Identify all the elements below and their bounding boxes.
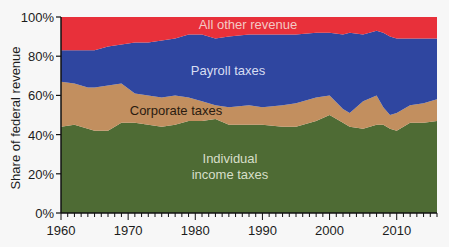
label-payroll-taxes: Payroll taxes xyxy=(191,63,266,78)
area-bands xyxy=(61,17,437,213)
x-tick-label: 1960 xyxy=(47,223,76,238)
x-tick-label: 1980 xyxy=(181,223,210,238)
label-all-other-revenue: All other revenue xyxy=(199,17,297,32)
y-tick-label: 60% xyxy=(28,88,54,103)
x-tick-label: 1970 xyxy=(114,223,143,238)
x-tick-label: 1990 xyxy=(248,223,277,238)
y-tick-label: 40% xyxy=(28,128,54,143)
x-tick-label: 2010 xyxy=(382,223,411,238)
label-individual: Individual xyxy=(203,151,258,166)
y-tick-label: 80% xyxy=(28,49,54,64)
label-income-taxes: income taxes xyxy=(192,167,269,182)
y-axis-label: Share of federal revenue xyxy=(8,46,23,189)
x-tick-label: 2000 xyxy=(315,223,344,238)
y-tick-label: 0% xyxy=(35,206,54,221)
stacked-area-chart: 0%20%40%60%80%100%1960197019801990200020… xyxy=(0,0,449,247)
y-tick-label: 20% xyxy=(28,167,54,182)
y-tick-label: 100% xyxy=(21,10,55,25)
label-corporate-taxes: Corporate taxes xyxy=(130,103,223,118)
